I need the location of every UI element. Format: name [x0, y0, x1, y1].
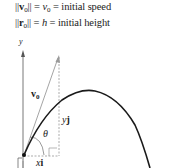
vertical-component-label: yj	[62, 114, 70, 125]
y-axis-label: y	[19, 37, 23, 46]
velocity-vector	[24, 58, 58, 155]
launch-point	[22, 153, 26, 157]
projectile-diagram	[0, 0, 174, 168]
angle-label: θ	[43, 128, 48, 139]
right-angle-marker	[49, 148, 57, 156]
y-axis-arrow-icon	[21, 50, 25, 57]
height-bracket	[18, 158, 22, 168]
velocity-arrow-icon	[56, 55, 61, 63]
horizontal-component-label: xi	[36, 157, 43, 168]
velocity-label: v0	[31, 88, 40, 101]
